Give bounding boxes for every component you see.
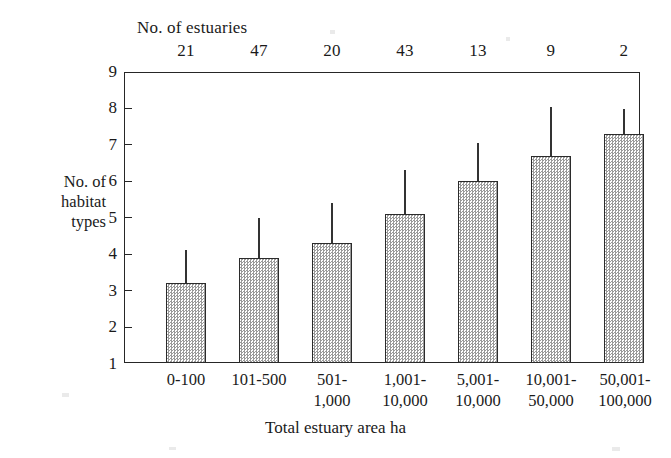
y-tick-label: 6 [95,171,117,191]
bar [531,156,571,363]
error-bar [477,143,479,181]
y-axis-title: No. of habitat types [18,172,106,232]
bar [604,134,644,363]
sample-size-value: 9 [521,41,581,61]
scan-speck [330,30,335,34]
scan-speck [612,447,620,451]
estuary-habitat-bar-chart: No. of estuaries 21 47 20 43 13 9 2 No. … [0,0,671,458]
bar [239,258,279,363]
error-bar [623,109,625,134]
sample-size-value: 43 [375,41,435,61]
error-bar [550,107,552,156]
bar [166,283,206,363]
error-bar [404,170,406,214]
y-tick-label: 8 [95,98,117,118]
error-bar [185,250,187,283]
sample-size-value: 20 [302,41,362,61]
error-bar [258,218,260,258]
y-tick-label: 1 [95,354,117,374]
error-bar [331,203,333,243]
x-axis-title: Total estuary area ha [0,418,671,438]
y-tick-label: 5 [95,208,117,228]
x-tick-line: 100,000 [578,390,671,411]
bar [458,181,498,363]
y-tick-label: 9 [95,62,117,82]
y-axis-title-line: types [18,212,106,232]
scan-speck [169,447,176,450]
sample-size-value: 2 [594,41,654,61]
y-tick-label: 4 [95,244,117,264]
sample-size-value: 47 [229,41,289,61]
y-axis-title-line: No. of [18,172,106,192]
secondary-axis-title: No. of estuaries [137,18,247,38]
scan-speck [62,393,69,397]
y-tick-label: 7 [95,135,117,155]
sample-size-value: 21 [156,41,216,61]
x-tick-label: 50,001- 100,000 [578,369,671,411]
y-axis-title-line: habitat [18,192,106,212]
sample-size-value: 13 [448,41,508,61]
y-tick-label: 2 [95,317,117,337]
bar [312,243,352,363]
x-tick-line: 50,001- [578,369,671,390]
bar [385,214,425,363]
y-tick-label: 3 [95,281,117,301]
